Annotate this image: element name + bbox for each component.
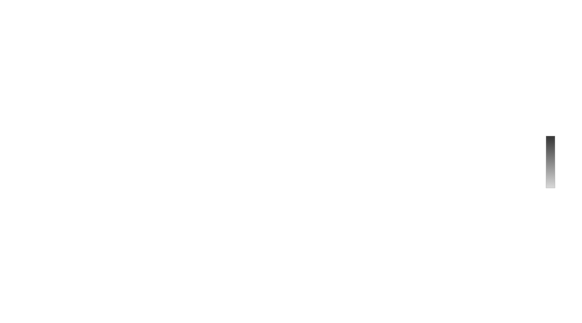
- pca-biplot: [0, 0, 582, 323]
- legend-contribucion: [546, 136, 555, 188]
- plot-background: [0, 0, 582, 323]
- legend-colorbar: [546, 136, 555, 188]
